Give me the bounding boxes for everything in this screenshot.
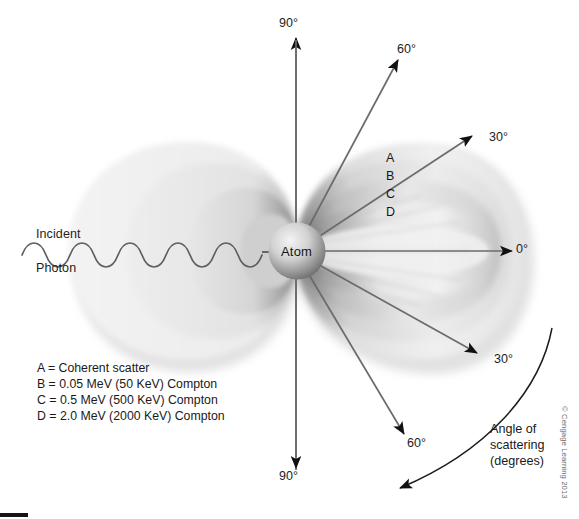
legend-entry-d: D = 2.0 MeV (2000 KeV) Compton <box>37 408 225 424</box>
label-90-bottom: 90° <box>279 470 298 483</box>
label-30-lower: 30° <box>494 353 513 366</box>
label-0-right: 0° <box>516 243 528 256</box>
backward-scatter-lobes <box>69 142 297 360</box>
curve-marker-d: D <box>386 204 395 222</box>
label-90-top: 90° <box>279 17 298 30</box>
curve-marker-a: A <box>386 150 394 168</box>
legend-entry-a: A = Coherent scatter <box>37 360 149 376</box>
photon-label: Photon <box>36 262 76 275</box>
angle-caption-line2: scattering <box>490 437 545 453</box>
angle-caption-line3: (degrees) <box>490 453 544 469</box>
incident-label: Incident <box>36 228 81 241</box>
label-60-upper: 60° <box>397 43 416 56</box>
curve-marker-c: C <box>386 186 395 204</box>
figure-canvas: 90° 90° 0° 60° 30° 30° 60° Atom Incident… <box>0 0 579 519</box>
angle-caption-line1: Angle of <box>490 421 536 437</box>
legend-entry-b: B = 0.05 MeV (50 KeV) Compton <box>37 376 217 392</box>
atom-label: Atom <box>281 244 312 259</box>
label-60-lower: 60° <box>407 437 426 450</box>
curve-marker-b: B <box>386 168 394 186</box>
legend-entry-c: C = 0.5 MeV (500 KeV) Compton <box>37 392 218 408</box>
caption-rule <box>0 513 28 517</box>
label-30-upper: 30° <box>489 131 508 144</box>
copyright-notice: © Cengage Learning 2013 <box>560 406 569 499</box>
